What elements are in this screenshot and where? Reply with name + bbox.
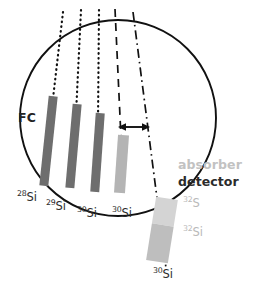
beam-line-30si-a [98, 10, 99, 122]
beam-lines-group [52, 9, 166, 268]
label-30si-b-mass: 30 [112, 205, 122, 214]
absorber-detector-stack [146, 197, 178, 264]
absorber-segment [152, 197, 178, 227]
label-29si-mass: 29 [46, 198, 56, 207]
label-28si-mass: 28 [17, 189, 27, 198]
fc-label: FC [18, 112, 36, 125]
label-30si-b: 30Si [112, 206, 132, 219]
label-30si-bottom-element: Si [163, 267, 174, 281]
collector-bars-group [39, 96, 129, 194]
bar-28si [39, 96, 57, 186]
detector-legend-label: detector [178, 176, 239, 189]
separation-arrow-head-left [118, 123, 126, 130]
label-30si-b-element: Si [122, 206, 133, 220]
beam-line-29si [76, 10, 81, 114]
label-32s: 32S [183, 196, 200, 209]
label-32si-mass: 32 [183, 224, 193, 233]
label-29si-element: Si [56, 199, 67, 213]
label-30si-a: 30Si [77, 206, 97, 219]
detector-segment [146, 223, 174, 263]
label-28si: 28Si [17, 190, 37, 203]
label-32si-element: Si [193, 225, 204, 239]
label-30si-bottom: 30Si [153, 267, 173, 280]
figure-canvas: FC absorber detector 28Si 29Si 30Si 30Si… [0, 0, 253, 294]
separation-arrow [118, 123, 150, 130]
bar-30si-b [114, 135, 129, 194]
label-30si-a-mass: 30 [77, 205, 87, 214]
label-28si-element: Si [27, 190, 38, 204]
diagram-svg [0, 0, 253, 294]
beam-line-30si-b [115, 9, 121, 138]
bar-29si [65, 104, 81, 188]
label-32si: 32Si [183, 225, 203, 238]
bar-30si-a [90, 113, 104, 192]
beam-line-28si [52, 12, 63, 107]
label-32s-mass: 32 [183, 195, 193, 204]
label-29si: 29Si [46, 199, 66, 212]
absorber-legend-label: absorber [178, 159, 242, 172]
label-30si-bottom-mass: 30 [153, 266, 163, 275]
label-32s-element: S [193, 196, 200, 210]
label-30si-a-element: Si [87, 206, 98, 220]
